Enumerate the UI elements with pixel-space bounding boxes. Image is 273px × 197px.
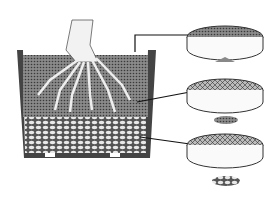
medium-layer — [23, 55, 148, 117]
bonsai-soil-illustration — [0, 0, 273, 197]
sieve-medium — [187, 79, 263, 124]
pot — [17, 50, 156, 158]
illustration-svg — [0, 0, 273, 197]
coarse-layer — [25, 117, 146, 153]
sieve-coarse — [187, 134, 263, 186]
sieve-fine — [187, 26, 263, 62]
